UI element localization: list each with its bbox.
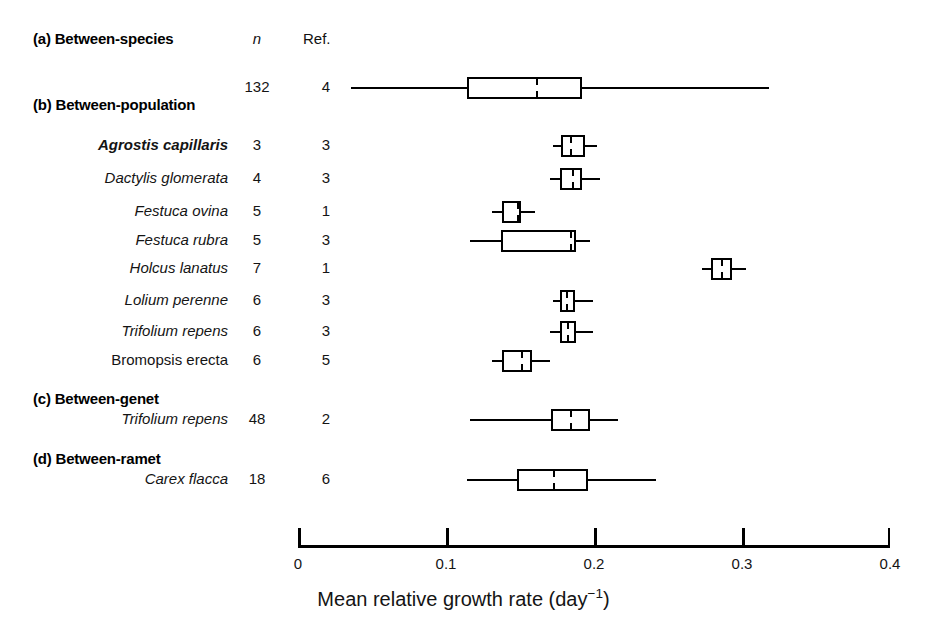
row-taxon-name: Festuca ovina [0,202,228,219]
axis-tick [888,528,891,547]
section-header-c: (c) Between-genet [33,390,159,407]
row-ref-value: 1 [303,259,349,276]
row-ref-value: 1 [303,202,349,219]
row-ref-value: 3 [303,169,349,186]
column-header-ref: Ref. [303,30,349,47]
row-ref-value: 4 [303,78,349,95]
axis-tick [298,528,301,547]
row-taxon-name: Trifolium repens [0,410,228,427]
row-taxon-name: Lolium perenne [0,291,228,308]
column-header-n: n [236,30,278,47]
row-n-value: 3 [236,136,278,153]
figure-box-plot-chart: (a) Between-species n Ref. (b) Between-p… [0,0,927,638]
table-row: Trifolium repens63 [0,319,927,349]
row-taxon-name: Holcus lanatus [0,259,228,276]
section-header-d: (d) Between-ramet [33,450,160,467]
row-taxon-name: Agrostis capillaris [0,136,228,153]
table-row: Holcus lanatus71 [0,256,927,286]
section-header-a: (a) Between-species [33,30,173,47]
row-taxon-name: Bromopsis erecta [0,351,228,368]
row-n-value: 6 [236,291,278,308]
axis-tick [446,528,449,547]
row-ref-value: 3 [303,322,349,339]
axis-tick-label: 0.3 [712,555,772,572]
axis-tick-label: 0.4 [860,555,920,572]
row-n-value: 6 [236,351,278,368]
table-row: Lolium perenne63 [0,288,927,318]
table-row: Carex flacca186 [0,467,927,497]
row-taxon-name: Dactylis glomerata [0,169,228,186]
axis-tick-label: 0 [268,555,328,572]
table-row: Dactylis glomerata43 [0,166,927,196]
table-row: Trifolium repens482 [0,407,927,437]
row-ref-value: 5 [303,351,349,368]
table-row: Festuca ovina51 [0,199,927,229]
table-row: Bromopsis erecta65 [0,348,927,378]
row-ref-value: 3 [303,231,349,248]
row-n-value: 6 [236,322,278,339]
row-n-value: 5 [236,231,278,248]
axis-tick-label: 0.1 [416,555,476,572]
row-n-value: 4 [236,169,278,186]
row-n-value: 18 [236,470,278,487]
axis-tick [742,528,745,547]
row-taxon-name: Trifolium repens [0,322,228,339]
row-ref-value: 6 [303,470,349,487]
row-ref-value: 2 [303,410,349,427]
x-axis-title-text: Mean relative growth rate (day [317,588,587,610]
x-axis-title-close: ) [603,588,610,610]
row-n-value: 7 [236,259,278,276]
table-row: 1324 [0,75,927,105]
row-n-value: 5 [236,202,278,219]
row-ref-value: 3 [303,291,349,308]
row-taxon-name: Festuca rubra [0,231,228,248]
axis-tick [594,528,597,547]
row-taxon-name: Carex flacca [0,470,228,487]
table-row: Agrostis capillaris33 [0,133,927,163]
row-n-value: 48 [236,410,278,427]
x-axis-title-exponent: −1 [587,586,603,601]
axis-tick-label: 0.2 [564,555,624,572]
row-ref-value: 3 [303,136,349,153]
row-n-value: 132 [236,78,278,95]
table-row: Festuca rubra53 [0,228,927,258]
